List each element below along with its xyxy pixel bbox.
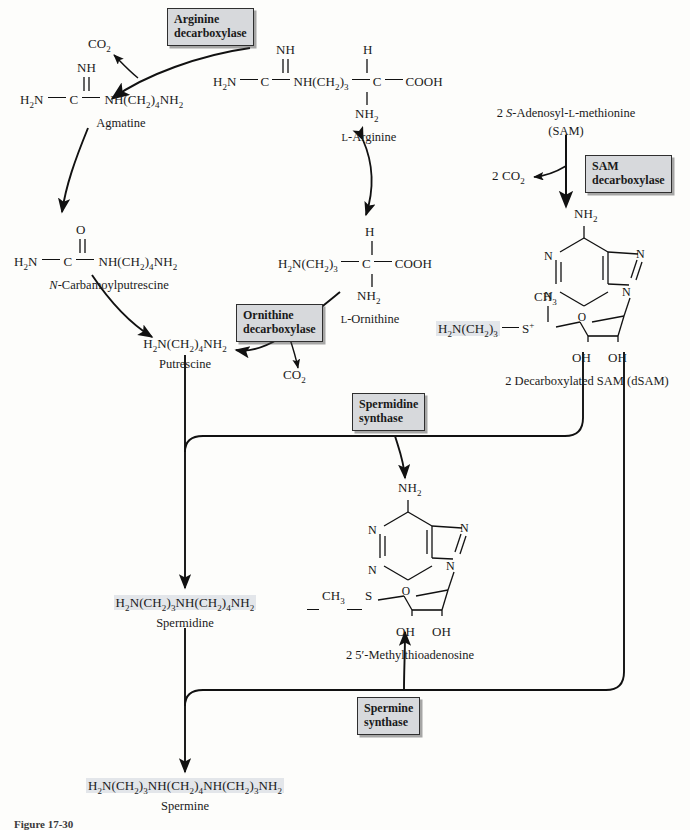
carbamoyl-carbonyl-oxygen: O (76, 222, 86, 238)
enzyme-sam-decarboxylase[interactable]: SAM decarboxylase (585, 155, 672, 193)
mta-methylthio-row: CH3 S (306, 588, 372, 606)
spermine-formula: H2N(CH2)3NH(CH2)4NH(CH2)3NH2 (60, 778, 310, 797)
svg-text:N: N (368, 563, 377, 577)
enzyme-label-line1: Ornithine (243, 308, 316, 322)
enzyme-label-line1: Spermidine (359, 397, 418, 411)
ornithine-alpha-carbon: C (362, 256, 371, 271)
enzyme-label-line1: Spermine (364, 701, 413, 715)
agmatine-formula-row: H2N C NH(CH2)4NH2 (20, 92, 183, 110)
enzyme-label-line1: Arginine (174, 12, 247, 26)
svg-text:N: N (460, 521, 469, 535)
metabolite-spermine: H2N(CH2)3NH(CH2)4NH(CH2)3NH2 Spermine (60, 778, 310, 814)
arginine-name: L-Arginine (309, 130, 429, 145)
mta-adenine-amino: NH2 (398, 480, 422, 498)
ornithine-carboxyl: COOH (395, 256, 432, 271)
svg-text:N: N (636, 247, 645, 261)
carbamoylputrescine-name: N-Carbamoylputrescine (14, 278, 204, 293)
dsam-adenine-amino: NH2 (574, 206, 598, 224)
carbamoyl-left-group: H2N (14, 254, 38, 269)
carbamoyl-formula-row: H2N C NH(CH2)4NH2 (14, 254, 177, 272)
arginine-imine-nh: NH (276, 42, 295, 58)
svg-text:O: O (402, 585, 410, 597)
arginine-left-group: H2N (213, 74, 237, 89)
enzyme-label-line1: SAM (592, 159, 665, 173)
enzyme-label-line2: decarboxylase (174, 26, 247, 40)
arginine-alpha-hydrogen: H (363, 42, 373, 58)
enzyme-label-line2: decarboxylase (592, 173, 665, 187)
enzyme-label-line2: synthase (359, 411, 418, 425)
mta-sulfur-atom: S (365, 588, 372, 603)
ornithine-alpha-amino: NH2 (357, 288, 381, 306)
ornithine-left-group: H2N(CH2)3 (278, 256, 338, 271)
co2-label: 2 CO2 (492, 168, 525, 183)
metabolite-co2-ornithine: CO2 (283, 367, 306, 386)
ornithine-alpha-hydrogen: H (365, 224, 375, 240)
co2-label: CO2 (88, 36, 111, 51)
sam-line2: (SAM) (452, 124, 680, 140)
enzyme-label-line2: synthase (364, 715, 413, 729)
enzyme-label-line2: decarboxylase (243, 322, 316, 336)
metabolite-spermidine: H2N(CH2)3NH(CH2)4NH2 Spermidine (90, 595, 280, 631)
metabolite-co2-agmatine: CO2 (88, 36, 111, 55)
agmatine-left-group: H2N (20, 92, 44, 107)
arginine-alpha-carbon: C (373, 74, 382, 89)
metabolite-putrescine: H2N(CH2)4NH2 Putrescine (123, 336, 247, 372)
sam-line1: 2 S-Adenosyl-L-methionine (452, 106, 680, 122)
agmatine-imine-nh: NH (77, 60, 96, 76)
metabolite-sam: 2 S-Adenosyl-L-methionine (SAM) (452, 104, 680, 139)
dsam-sulfonium: S+ (522, 321, 535, 336)
svg-text:N: N (622, 285, 631, 299)
mta-methyl-group: CH3 (322, 588, 345, 603)
arginine-alpha-amino: NH2 (355, 106, 379, 124)
dsam-aminopropyl-row: H2N(CH2)3 S+ (436, 320, 534, 339)
metabolite-co2-sam: 2 CO2 (492, 168, 525, 187)
putrescine-formula: H2N(CH2)4NH2 (123, 336, 247, 355)
spermidine-formula: H2N(CH2)3NH(CH2)4NH2 (90, 595, 280, 614)
agmatine-right-group: NH(CH2)4NH2 (104, 92, 183, 107)
dsam-hydroxyl-3: OH (608, 350, 627, 366)
spermidine-name: Spermidine (90, 616, 280, 632)
figure-caption: Figure 17-30 (14, 818, 73, 830)
co2-label: CO2 (283, 367, 306, 382)
svg-text:N: N (446, 559, 455, 573)
svg-text:N: N (544, 249, 553, 263)
enzyme-spermine-synthase[interactable]: Spermine synthase (357, 697, 420, 735)
arginine-formula-row: H2N C NH(CH2)3 C COOH (213, 74, 443, 92)
agmatine-name: Agmatine (56, 116, 186, 131)
carbamoyl-right-group: NH(CH2)4NH2 (98, 254, 177, 269)
spermine-name: Spermine (60, 799, 310, 815)
arginine-carboxyl: COOH (406, 74, 443, 89)
enzyme-arginine-decarboxylase[interactable]: Arginine decarboxylase (167, 8, 254, 46)
carbamoyl-center-carbon: C (64, 254, 73, 269)
arginine-guanidino-carbon: C (261, 74, 270, 89)
dsam-aminopropyl-group: H2N(CH2)3 (436, 321, 500, 336)
mta-hydroxyl-3: OH (432, 624, 451, 640)
putrescine-name: Putrescine (123, 357, 247, 373)
agmatine-center-carbon: C (70, 92, 79, 107)
ornithine-name: L-Ornithine (310, 312, 430, 327)
arginine-chain: NH(CH2)3 (293, 74, 348, 89)
dsam-s-methyl-bond (542, 306, 582, 328)
ornithine-formula-row: H2N(CH2)3 C COOH (278, 256, 432, 274)
mta-name: 2 5′-Methylthioadenosine (285, 648, 535, 663)
enzyme-spermidine-synthase[interactable]: Spermidine synthase (352, 393, 425, 431)
dsam-hydroxyl-2: OH (572, 350, 591, 366)
dsam-methyl-group: CH3 (534, 289, 557, 307)
mta-hydroxyl-2: OH (396, 624, 415, 640)
svg-text:N: N (368, 523, 377, 537)
dsam-name: 2 Decarboxylated SAM (dSAM) (487, 374, 687, 389)
